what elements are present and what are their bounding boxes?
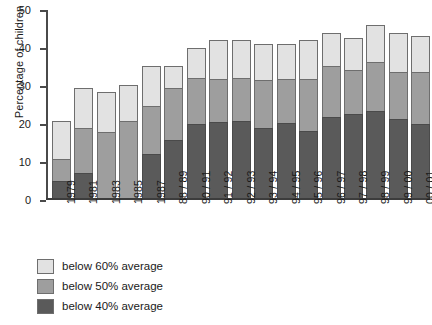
x-axis-label: 95 / 96: [299, 204, 318, 216]
bar-segment-s50: [142, 106, 161, 154]
bar-segment-s60: [52, 121, 71, 159]
bar-segment-s50: [322, 66, 341, 117]
bar-segment-s50: [254, 80, 273, 129]
bar-segment-s50: [411, 72, 430, 124]
x-axis-label: 00 / 01: [411, 204, 430, 216]
x-axis-label: 1983: [97, 204, 116, 216]
legend-item[interactable]: below 50% average: [37, 276, 163, 296]
chart-figure: Percentage of children 01020304050 19791…: [0, 0, 432, 325]
y-tick: 40: [40, 48, 46, 50]
y-tick: 20: [40, 124, 46, 126]
bar-segment-s50: [164, 88, 183, 140]
bar-segment-s60: [277, 44, 296, 79]
bar-segment-s60: [254, 44, 273, 80]
x-axis-label: 1985: [119, 204, 138, 216]
x-axis-label: 91 / 92: [209, 204, 228, 216]
legend-swatch-icon: [37, 299, 54, 314]
x-axis-label: 90 / 91: [187, 204, 206, 216]
bar-segment-s60: [344, 38, 363, 70]
bar-segment-s50: [74, 128, 93, 172]
y-axis-title: Percentage of children: [13, 0, 25, 137]
bar-segment-s50: [209, 79, 228, 121]
bar-segment-s60: [164, 66, 183, 87]
bar-segment-s60: [366, 25, 385, 62]
legend-swatch-icon: [37, 259, 54, 274]
bar-segment-s60: [232, 40, 251, 78]
legend-item[interactable]: below 60% average: [37, 256, 163, 276]
x-axis-label: 1987: [142, 204, 161, 216]
y-tick: 10: [40, 162, 46, 164]
y-tick: 30: [40, 86, 46, 88]
y-tick-label: 50: [19, 4, 31, 16]
chart-legend: below 60% averagebelow 50% averagebelow …: [37, 256, 163, 316]
bar-segment-s60: [322, 33, 341, 67]
bar-segment-s50: [366, 62, 385, 111]
x-axis-label: 1979: [52, 204, 71, 216]
bar-segment-s50: [277, 79, 296, 123]
bar-segment-s60: [74, 88, 93, 128]
bar-group: [48, 10, 430, 198]
legend-item[interactable]: below 40% average: [37, 296, 163, 316]
x-axis-label: 94 / 95: [277, 204, 296, 216]
y-tick-label: 0: [25, 194, 31, 206]
legend-label: below 40% average: [62, 300, 163, 312]
x-axis-label: 1981: [74, 204, 93, 216]
bar-segment-s50: [344, 70, 363, 114]
x-axis-label: 98 / 99: [366, 204, 385, 216]
x-axis-label: 92 / 93: [232, 204, 251, 216]
bar-segment-s60: [299, 40, 318, 79]
x-axis-label: 88 / 89: [164, 204, 183, 216]
bar-segment-s50: [389, 72, 408, 119]
bar-segment-s60: [97, 92, 116, 132]
bar-segment-s60: [142, 66, 161, 106]
bar-segment-s50: [232, 78, 251, 121]
y-tick: 50: [40, 10, 46, 12]
y-tick-label: 20: [19, 118, 31, 130]
bar-segment-s60: [411, 36, 430, 72]
x-axis-line: [46, 198, 430, 200]
x-axis-label: 93 / 94: [254, 204, 273, 216]
bar-segment-s60: [209, 40, 228, 79]
x-axis-labels: 1979198119831985198788 / 8990 / 9191 / 9…: [48, 204, 430, 256]
y-tick: 0: [40, 200, 46, 202]
plot-area: 01020304050: [46, 10, 430, 200]
bar-segment-s50: [299, 79, 318, 132]
y-tick-label: 30: [19, 80, 31, 92]
bar-segment-s60: [389, 33, 408, 72]
bar-segment-s60: [187, 48, 206, 78]
bar-segment-s50: [187, 78, 206, 124]
bar-segment-s60: [119, 85, 138, 121]
legend-swatch-icon: [37, 279, 54, 294]
x-axis-label: 96 / 97: [322, 204, 341, 216]
legend-label: below 60% average: [62, 260, 163, 272]
x-axis-label: 97 / 98: [344, 204, 363, 216]
bar-segment-s50: [52, 159, 71, 180]
legend-label: below 50% average: [62, 280, 163, 292]
x-axis-label: 99 / 00: [389, 204, 408, 216]
bar-1987[interactable]: [142, 66, 161, 198]
y-tick-label: 10: [19, 156, 31, 168]
y-tick-label: 40: [19, 42, 31, 54]
